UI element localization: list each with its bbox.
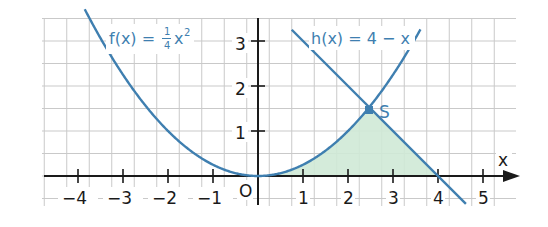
shaded-area [258,107,438,176]
f-label-denominator: 4 [164,40,170,51]
f-label-numerator: 1 [164,26,170,37]
point-s-marker [365,106,373,114]
y-tick-label: 2 [235,79,246,99]
function-plot: S −4 −3 −2 −1 1 2 3 4 5 1 2 3 O x f(x) =… [0,0,548,227]
origin-label: O [239,181,252,201]
x-tick-label: −2 [152,188,177,208]
x-tick-label: 1 [298,188,309,208]
x-axis-label: x [498,150,508,170]
h-label: h(x) = 4 − x [309,26,415,50]
x-tick-label: 2 [343,188,354,208]
x-tick-label: 5 [478,188,489,208]
y-tick-label: 1 [235,123,246,143]
y-tick-labels: 1 2 3 [232,33,248,143]
y-tick-label: 3 [235,34,246,54]
x-tick-label: −3 [107,188,132,208]
f-label: f(x) = 1 4 x 2 [106,24,194,54]
f-label-prefix: f(x) = [109,29,155,48]
x-axis-arrow-icon [503,170,520,182]
x-tick-label: −4 [62,188,87,208]
f-label-exponent: 2 [184,27,190,38]
x-tick-label: 4 [433,188,444,208]
x-tick-label: 3 [388,188,399,208]
h-label-text: h(x) = 4 − x [311,29,410,48]
f-label-variable: x [174,29,183,48]
x-tick-label: −1 [197,188,222,208]
point-s-label: S [379,102,390,122]
